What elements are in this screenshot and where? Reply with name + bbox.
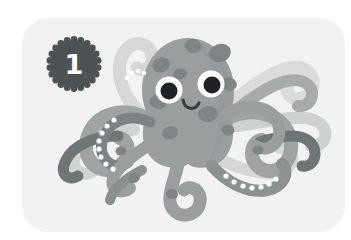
illustration-card: 1 [22,18,345,232]
step-number-badge: 1 [46,36,102,92]
screenshot-root: 1 [0,0,351,240]
eye-left [156,77,183,104]
badge-number-label: 1 [46,36,102,92]
eye-right [198,71,225,98]
